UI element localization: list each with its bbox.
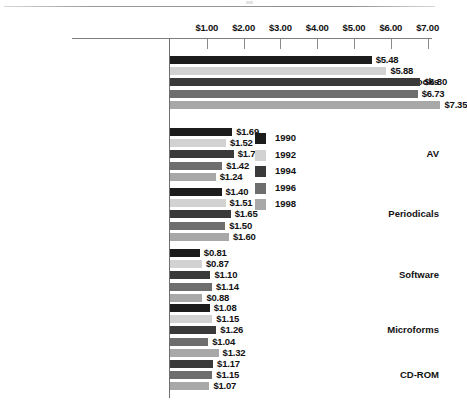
legend-label: 1996 xyxy=(275,182,296,193)
bar-value-label: $1.32 xyxy=(223,347,246,358)
bar-row: $1.52 xyxy=(170,139,439,147)
x-axis-tick-label: $3.00 xyxy=(269,22,292,33)
bar-value-label: $5.48 xyxy=(376,54,399,65)
bar-row: $1.51 xyxy=(170,199,439,207)
bar-row: $0.87 xyxy=(170,260,439,268)
bar-value-label: $0.87 xyxy=(206,258,229,269)
bar-av-1990 xyxy=(170,128,232,136)
bar-av-1996 xyxy=(170,162,222,170)
bar-microforms-1998 xyxy=(170,349,219,357)
bar-books-1990 xyxy=(170,56,372,64)
legend-label: 1992 xyxy=(275,149,296,160)
bar-group: Books$5.48$5.88$6.80$6.73$7.35 xyxy=(0,56,439,109)
bar-value-label: $1.17 xyxy=(217,358,240,369)
bar-group: Periodicals$1.40$1.51$1.65$1.50$1.60 xyxy=(0,188,439,241)
bar-row: $0.88 xyxy=(170,294,439,302)
legend-swatch-1990 xyxy=(255,133,266,144)
x-axis-tick xyxy=(354,39,355,49)
bar-row: $1.60 xyxy=(170,233,439,241)
bar-periodicals-1996 xyxy=(170,222,225,230)
bar-value-label: $1.24 xyxy=(220,171,243,182)
bar-row: $1.04 xyxy=(170,338,439,346)
legend-swatch-1998 xyxy=(255,199,266,210)
legend-label: 1998 xyxy=(275,198,296,209)
bar-value-label: $1.50 xyxy=(229,220,252,231)
bar-value-label: $1.14 xyxy=(216,281,239,292)
bar-value-label: $1.40 xyxy=(226,186,249,197)
x-axis-tick xyxy=(391,39,392,49)
x-axis-tick-label: $4.00 xyxy=(306,22,329,33)
bar-software-1998 xyxy=(170,294,202,302)
bar-periodicals-1990 xyxy=(170,188,222,196)
bar-row: $0.81 xyxy=(170,249,439,257)
x-axis-tick-label: $5.00 xyxy=(343,22,366,33)
bar-software-1992 xyxy=(170,260,202,268)
bar-books-1998 xyxy=(170,101,440,109)
bar-periodicals-1994 xyxy=(170,210,231,218)
bar-books-1992 xyxy=(170,67,386,75)
bar-row: $1.15 xyxy=(170,315,439,323)
bar-value-label: $1.26 xyxy=(220,324,243,335)
bar-software-1996 xyxy=(170,283,212,291)
x-axis-tick xyxy=(207,39,208,49)
bar-value-label: $0.81 xyxy=(204,247,227,258)
bar-microforms-1990 xyxy=(170,304,210,312)
bar-value-label: $6.73 xyxy=(422,88,445,99)
x-axis-tick-label: $1.00 xyxy=(195,22,218,33)
bar-row: $1.73 xyxy=(170,150,439,158)
bar-group: Microforms$1.08$1.15$1.26$1.04$1.32 xyxy=(0,304,439,357)
bar-row: $1.24 xyxy=(170,173,439,181)
bar-row: $1.65 xyxy=(170,210,439,218)
bar-value-label: $1.15 xyxy=(216,369,239,380)
bar-cd-rom-1996 xyxy=(170,371,212,379)
legend-label: 1994 xyxy=(275,165,296,176)
bar-group: AV$1.69$1.52$1.73$1.42$1.24 xyxy=(0,128,439,181)
bar-av-1998 xyxy=(170,173,216,181)
bar-books-1994 xyxy=(170,78,420,86)
bar-microforms-1992 xyxy=(170,315,212,323)
bar-value-label: $1.60 xyxy=(233,231,256,242)
bar-value-label: $6.80 xyxy=(424,76,447,87)
bar-value-label: $5.88 xyxy=(390,65,413,76)
bar-software-1990 xyxy=(170,249,200,257)
bar-value-label: $1.42 xyxy=(226,160,249,171)
bar-row: $1.07 xyxy=(170,382,439,390)
bar-microforms-1996 xyxy=(170,338,208,346)
x-axis-tick xyxy=(280,39,281,49)
legend-swatch-1996 xyxy=(255,183,266,194)
bar-group: CD-ROM$1.17$1.15$1.07 xyxy=(0,360,439,390)
x-axis-tick-label: $7.00 xyxy=(416,22,439,33)
bar-books-1996 xyxy=(170,90,418,98)
bar-cd-rom-1994 xyxy=(170,360,213,368)
bar-microforms-1994 xyxy=(170,326,216,334)
bar-periodicals-1992 xyxy=(170,199,226,207)
bar-cd-rom-1998 xyxy=(170,382,209,390)
bar-value-label: $7.35 xyxy=(444,99,467,110)
bar-row: $1.50 xyxy=(170,222,439,230)
x-axis-tick-label: $6.00 xyxy=(379,22,402,33)
bar-av-1994 xyxy=(170,150,234,158)
bar-row: $7.35 xyxy=(170,101,439,109)
bar-av-1992 xyxy=(170,139,226,147)
x-axis-tick xyxy=(317,39,318,49)
x-axis-line xyxy=(72,38,432,39)
x-axis-tick xyxy=(244,39,245,49)
bar-row: $1.40 xyxy=(170,188,439,196)
bar-value-label: $1.10 xyxy=(214,269,237,280)
legend-label: 1990 xyxy=(275,132,296,143)
bar-row: $1.17 xyxy=(170,360,439,368)
bar-row: $1.42 xyxy=(170,162,439,170)
bar-row: $1.10 xyxy=(170,271,439,279)
bar-row: $1.08 xyxy=(170,304,439,312)
bar-value-label: $1.07 xyxy=(213,380,236,391)
bar-value-label: $1.04 xyxy=(212,336,235,347)
bar-row: $1.26 xyxy=(170,326,439,334)
bar-row: $5.48 xyxy=(170,56,439,64)
bar-value-label: $1.08 xyxy=(214,302,237,313)
bar-group: Software$0.81$0.87$1.10$1.14$0.88 xyxy=(0,249,439,302)
bar-row: $1.69 xyxy=(170,128,439,136)
bar-value-label: $1.15 xyxy=(216,313,239,324)
bar-row: $6.73 xyxy=(170,90,439,98)
bar-periodicals-1998 xyxy=(170,233,229,241)
